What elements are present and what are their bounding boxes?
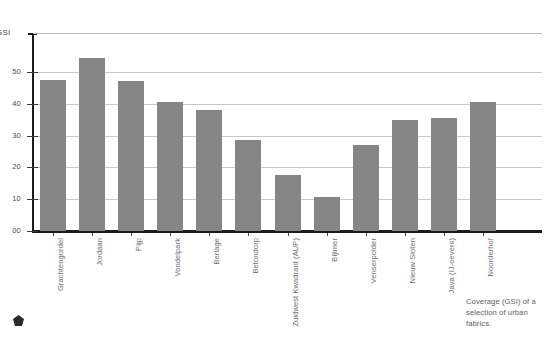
x-axis-label: Betondorp <box>251 238 260 274</box>
x-tick <box>131 233 132 236</box>
x-axis-label: Jordaan <box>95 238 104 266</box>
figure-caption: Coverage (GSI) of a selection of urban f… <box>466 296 554 329</box>
x-axis-label: Grachtengordel <box>56 238 65 291</box>
x-tick <box>248 233 249 236</box>
x-tick <box>483 233 484 236</box>
y-axis-title: GSI <box>0 28 10 37</box>
x-axis-label: Noorderhof <box>486 238 495 277</box>
x-axis-label: Zuidwest Kwadrant (AUP) <box>291 238 300 327</box>
bar <box>275 175 301 231</box>
x-tick <box>405 233 406 236</box>
gridline-20 <box>33 167 542 168</box>
y-tick-label-30: 30 <box>0 131 21 140</box>
x-tick <box>327 233 328 236</box>
x-axis-label: Nieuw Sloten <box>408 238 417 283</box>
y-tick-50 <box>27 72 38 73</box>
gridline-30 <box>33 136 542 137</box>
bar <box>118 81 144 231</box>
chart-figure: GSI 001020304050 GrachtengordelJordaanPi… <box>0 0 558 358</box>
y-tick-10 <box>27 199 38 200</box>
x-axis-label: Berlage <box>212 238 221 265</box>
gridline-50 <box>33 72 542 73</box>
y-tick-label-20: 20 <box>0 162 21 171</box>
bar <box>79 58 105 231</box>
y-tick-label-50: 50 <box>0 67 21 76</box>
y-tick-20 <box>27 167 38 168</box>
bar <box>353 145 379 231</box>
bar <box>196 110 222 231</box>
y-tick-label-40: 40 <box>0 99 21 108</box>
bar <box>40 80 66 231</box>
bar <box>392 120 418 231</box>
x-axis-label: Pijp <box>134 238 143 251</box>
y-tick-30 <box>27 136 38 137</box>
bar <box>431 118 457 231</box>
y-tick-0 <box>27 231 38 232</box>
x-tick <box>170 233 171 236</box>
x-axis-label: Bijlmer <box>330 238 339 262</box>
x-axis-label: Venserpolder <box>369 238 378 283</box>
bar <box>235 140 261 231</box>
y-tick-40 <box>27 104 38 105</box>
x-axis-label: Vondelpark <box>173 238 182 277</box>
y-tick-label-10: 10 <box>0 194 21 203</box>
x-tick <box>92 233 93 236</box>
x-tick <box>209 233 210 236</box>
x-tick <box>288 233 289 236</box>
bar <box>314 197 340 231</box>
gridline-top <box>33 33 542 34</box>
x-axis-label: Java (IJ-oevers) <box>447 238 456 293</box>
bar <box>157 102 183 231</box>
y-tick-label-0: 00 <box>0 226 21 235</box>
x-tick <box>444 233 445 236</box>
gridline-40 <box>33 104 542 105</box>
bar <box>470 102 496 231</box>
x-tick <box>53 233 54 236</box>
pentagon-mark-icon <box>13 315 24 326</box>
y-axis-line <box>32 33 34 232</box>
x-tick <box>366 233 367 236</box>
